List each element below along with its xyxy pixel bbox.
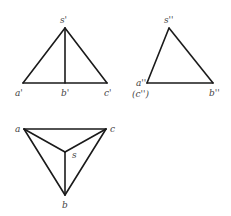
side-view: s'' a'' (c'') b'' bbox=[132, 15, 220, 99]
side-label-b: b'' bbox=[209, 88, 220, 98]
top-edge-as bbox=[24, 129, 65, 152]
side-edge-sa bbox=[147, 28, 169, 83]
diagram-svg: s' a' b' c' s'' a'' (c'') b'' a c s b bbox=[0, 0, 231, 216]
top-label-b: b bbox=[62, 200, 68, 210]
top-label-s: s bbox=[72, 150, 77, 160]
side-label-c: (c'') bbox=[132, 89, 150, 99]
side-label-a: a'' bbox=[136, 78, 146, 88]
top-edge-cs bbox=[65, 129, 106, 152]
projection-diagram: s' a' b' c' s'' a'' (c'') b'' a c s b bbox=[0, 0, 231, 216]
top-label-c: c bbox=[110, 124, 115, 134]
front-edge-sa bbox=[23, 28, 65, 83]
side-edge-sb bbox=[169, 28, 213, 83]
front-edge-sc bbox=[65, 28, 107, 83]
front-label-a: a' bbox=[15, 88, 23, 98]
front-label-s: s' bbox=[60, 15, 67, 25]
side-label-s: s'' bbox=[164, 15, 174, 25]
front-label-c: c' bbox=[104, 88, 112, 98]
top-view: a c s b bbox=[15, 124, 115, 210]
front-label-b: b' bbox=[61, 88, 69, 98]
top-edge-cb bbox=[65, 129, 106, 195]
front-view: s' a' b' c' bbox=[15, 15, 112, 98]
top-edge-ab bbox=[24, 129, 65, 195]
top-label-a: a bbox=[15, 124, 20, 134]
